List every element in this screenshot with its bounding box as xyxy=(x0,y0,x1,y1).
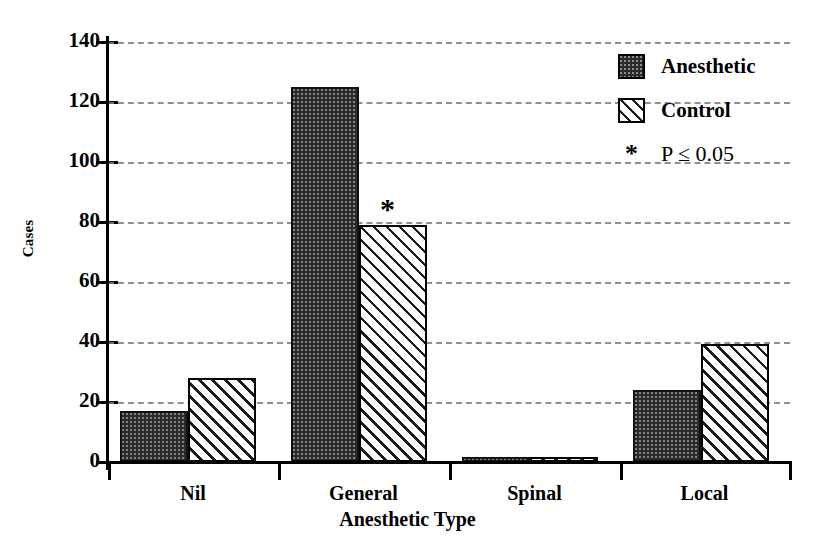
legend-entry-control: Control xyxy=(618,88,808,132)
y-axis-line xyxy=(106,36,109,470)
legend-label-pvalue: P ≤ 0.05 xyxy=(661,141,734,167)
significance-asterisk: * xyxy=(380,194,395,224)
y-tick-label-140: 140 xyxy=(40,30,100,51)
legend-label-control: Control xyxy=(661,98,731,123)
y-tick-label-40: 40 xyxy=(40,330,100,351)
bar-general-anesthetic xyxy=(291,87,359,462)
asterisk-icon: * xyxy=(618,141,645,167)
bar-nil-anesthetic xyxy=(120,411,188,462)
x-label-spinal: Spinal xyxy=(449,482,620,505)
x-label-local: Local xyxy=(620,482,789,505)
y-tick-label-0: 0 xyxy=(40,450,100,471)
x-tick-mark-3 xyxy=(620,462,623,480)
legend-swatch-anesthetic-icon xyxy=(618,54,645,79)
bar-local-anesthetic xyxy=(633,390,701,462)
y-tick-label-20: 20 xyxy=(40,390,100,411)
x-tick-mark-0 xyxy=(108,462,111,480)
bar-chart: Cases 140 120 100 80 60 40 20 0 xyxy=(0,0,815,546)
legend-label-anesthetic: Anesthetic xyxy=(661,54,755,79)
y-tick-label-80: 80 xyxy=(40,210,100,231)
x-tick-mark-4 xyxy=(789,462,792,480)
bar-general-control xyxy=(359,225,427,462)
x-label-general: General xyxy=(278,482,449,505)
bar-nil-control xyxy=(188,378,256,462)
y-tick-labels: 140 120 100 80 60 40 20 0 xyxy=(32,0,100,546)
legend-swatch-control-icon xyxy=(618,98,645,123)
y-tick-label-100: 100 xyxy=(40,150,100,171)
x-label-nil: Nil xyxy=(108,482,278,505)
legend-entry-anesthetic: Anesthetic xyxy=(618,44,808,88)
legend-entry-pvalue: * P ≤ 0.05 xyxy=(618,132,808,176)
x-tick-mark-2 xyxy=(449,462,452,480)
bar-local-control xyxy=(701,344,769,462)
x-axis-title: Anesthetic Type xyxy=(0,508,815,531)
chart-legend: Anesthetic Control * P ≤ 0.05 xyxy=(618,44,808,176)
x-tick-mark-1 xyxy=(278,462,281,480)
x-axis-line xyxy=(100,461,792,464)
y-tick-label-120: 120 xyxy=(40,90,100,111)
y-tick-label-60: 60 xyxy=(40,270,100,291)
